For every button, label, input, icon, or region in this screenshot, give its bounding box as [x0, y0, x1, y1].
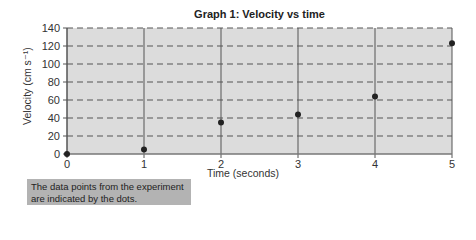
plot-background	[67, 28, 452, 154]
y-tick-label: 60	[48, 94, 60, 106]
data-point	[449, 40, 455, 46]
x-tick-label: 3	[295, 158, 301, 170]
data-point	[295, 111, 301, 117]
x-tick-label: 1	[141, 158, 147, 170]
data-point	[141, 147, 147, 153]
x-tick-label: 4	[372, 158, 378, 170]
annotation-line-1: The data points from the experiment	[31, 181, 187, 193]
x-axis-label: Time (seconds)	[207, 167, 279, 179]
y-tick-label: 80	[48, 76, 60, 88]
data-point	[64, 151, 70, 157]
data-point	[372, 93, 378, 99]
y-tick-label: 40	[48, 112, 60, 124]
y-tick-label: 0	[54, 148, 60, 160]
x-tick-label: 0	[64, 158, 70, 170]
x-tick-label: 5	[449, 158, 455, 170]
annotation-line-2: are indicated by the dots.	[31, 193, 187, 205]
y-tick-label: 100	[42, 58, 60, 70]
y-axis-label: Velocity (cm s⁻¹)	[21, 31, 33, 141]
data-point	[218, 120, 224, 126]
y-tick-label: 140	[42, 22, 60, 34]
y-tick-label: 20	[48, 130, 60, 142]
y-tick-label: 120	[42, 40, 60, 52]
annotation-note: The data points from the experiment are …	[27, 179, 191, 205]
